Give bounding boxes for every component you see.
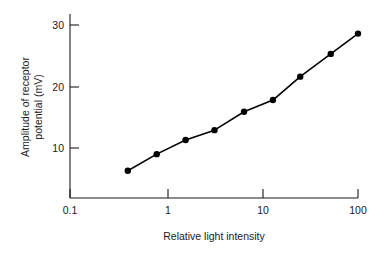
y-axis-title-line1: Amplitude of receptor (19, 57, 31, 157)
data-point (270, 97, 276, 103)
data-point (182, 137, 188, 143)
data-point (154, 151, 160, 157)
x-axis-title: Relative light intensity (163, 230, 265, 242)
x-tick-label-100: 100 (349, 204, 367, 216)
chart-background (0, 0, 385, 253)
y-tick-label-20: 20 (52, 81, 64, 93)
x-tick-label-1: 1 (165, 204, 171, 216)
data-point (297, 73, 303, 79)
figure-container: 30 20 10 0.1 1 10 100 Relative light int… (0, 0, 385, 253)
data-point (241, 109, 247, 115)
receptor-potential-chart: 30 20 10 0.1 1 10 100 Relative light int… (0, 0, 385, 253)
data-point (125, 168, 131, 174)
x-tick-label-0.1: 0.1 (63, 204, 78, 216)
y-tick-label-10: 10 (52, 142, 64, 154)
data-point (328, 51, 334, 57)
x-tick-label-10: 10 (257, 204, 269, 216)
data-point (355, 30, 361, 36)
y-axis-title-line2: potential (mV) (32, 74, 44, 139)
data-point (211, 127, 217, 133)
y-tick-label-30: 30 (52, 19, 64, 31)
